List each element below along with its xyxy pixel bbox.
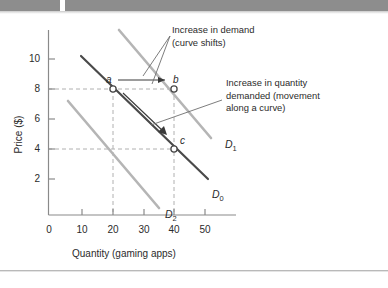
curve-label-d2-letter: D [165,208,173,220]
point-label-a: a [106,74,112,85]
x-axis-tick-label-10: 10 [70,224,94,235]
page-bottom-rule-highlight [0,271,388,272]
annotation-increase-in-quantity-demanded-line1: Increase in quantity [226,77,320,90]
point-label-b: b [173,74,179,85]
x-axis-tick-label-20: 20 [101,224,125,235]
annotation-increase-in-quantity-demanded-line3: along a curve) [226,102,320,115]
curve-label-d2-subscript: 2 [173,214,177,223]
marker-point-a [110,86,116,92]
x-axis-tick-label-30: 30 [132,224,156,235]
marker-point-c [171,146,177,152]
y-axis-tick-label-8: 8 [18,83,40,94]
curve-label-d1: D1 [225,138,237,153]
curve-label-d0-letter: D [212,188,220,200]
page-top-band [0,0,388,11]
page-top-band-gap [60,0,65,11]
y-axis-tick-label-2: 2 [18,173,40,184]
annotation-increase-in-demand: Increase in demand (curve shifts) [172,24,254,49]
annotation-increase-in-demand-line2: (curve shifts) [172,37,254,50]
point-label-c: c [180,135,185,146]
leader-demand-a [143,36,170,76]
y-axis-ticks [49,59,56,179]
marker-point-b [171,86,177,92]
curve-label-d0: D0 [212,188,224,203]
annotation-increase-in-quantity-demanded: Increase in quantity demanded (movement … [226,77,320,115]
arrow-increase-in-quantity-demanded [123,93,167,135]
leader-quantity [151,100,222,125]
arrow-increase-in-demand [118,77,165,83]
curve-label-d1-subscript: 1 [233,144,237,153]
demand-curve-figure: 10 8 6 4 2 0 10 20 30 40 50 Price ($) Qu… [0,14,388,270]
x-axis-origin-label: 0 [37,224,61,235]
x-axis-ticks [82,209,205,215]
x-axis-tick-label-50: 50 [193,224,217,235]
curve-label-d2: D2 [165,208,177,223]
x-axis-title: Quantity (gaming apps) [72,248,176,259]
annotation-increase-in-quantity-demanded-line2: demanded (movement [226,90,320,103]
annotation-increase-in-demand-line1: Increase in demand [172,24,254,37]
curve-label-d0-subscript: 0 [220,194,224,203]
curve-label-d1-letter: D [225,138,233,150]
y-axis-tick-label-10: 10 [18,53,40,64]
y-axis-title: Price ($) [13,105,24,165]
x-axis-tick-label-40: 40 [162,224,186,235]
leader-demand-b [152,36,170,84]
